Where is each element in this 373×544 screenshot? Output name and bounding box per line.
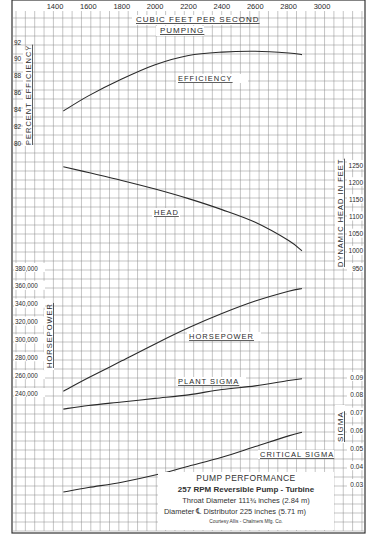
horsepower-tick-label: 380,000: [15, 265, 38, 272]
efficiency-tick-label: 88: [14, 72, 22, 79]
horsepower-tick-label: 240,000: [15, 390, 38, 397]
sigma-tick-label: 0.08: [350, 391, 363, 398]
head-tick-label: 1250: [349, 162, 364, 169]
x-tick-label: 2800: [280, 2, 297, 11]
horsepower-curve: [63, 289, 302, 392]
x-axis-label-2: PUMPING: [160, 26, 204, 35]
x-tick-label: 2400: [214, 2, 231, 11]
head-tick-label: 1100: [349, 213, 363, 220]
horsepower-tick-label: 320,000: [15, 318, 38, 325]
sigma-axis-label: SIGMA: [336, 411, 345, 442]
caption-line3: Diameter ℄ Distributor 225 inches (5.71 …: [136, 507, 334, 516]
pump-performance-chart: 1400160018002000220024002600280030008082…: [0, 0, 373, 544]
x-tick-label: 2000: [147, 2, 164, 11]
horsepower-tick-label: 300,000: [15, 336, 38, 343]
caption-line2: Throat Diameter 111¾ inches (2.84 m): [158, 496, 334, 505]
efficiency-tick-label: 80: [14, 140, 22, 147]
horsepower-tick-label: 360,000: [15, 282, 38, 289]
x-tick-label: 2600: [247, 2, 264, 11]
plant-sigma-curve-label: PLANT SIGMA: [178, 377, 239, 386]
efficiency-tick-label: 86: [14, 89, 22, 96]
x-tick-label: 1400: [47, 2, 64, 11]
efficiency-tick-label: 90: [14, 55, 22, 62]
head-tick-label: 1050: [349, 230, 364, 237]
head-tick-label: 1150: [349, 196, 363, 203]
efficiency-tick-label: 82: [14, 123, 22, 130]
head-tick-label: 950: [352, 265, 363, 272]
chart-caption: PUMP PERFORMANCE 257 RPM Reversible Pump…: [158, 472, 334, 530]
sigma-tick-label: 0.06: [350, 427, 363, 434]
sigma-tick-label: 0.04: [350, 463, 363, 470]
x-tick-label: 1600: [80, 2, 97, 11]
efficiency-tick-label: 92: [14, 39, 22, 46]
sigma-tick-label: 0.03: [350, 481, 363, 488]
data-curves: [63, 51, 302, 492]
head-tick-label: 1000: [349, 247, 364, 254]
sigma-tick-label: 0.05: [350, 445, 363, 452]
x-tick-label: 3000: [314, 2, 331, 11]
caption-line1: 257 RPM Reversible Pump - Turbine: [158, 485, 334, 494]
caption-title: PUMP PERFORMANCE: [158, 473, 334, 483]
x-axis-label: CUBIC FEET PER SECOND: [136, 15, 260, 24]
horsepower-axis-label: HORSEPOWER: [45, 303, 54, 368]
horsepower-tick-label: 340,000: [15, 300, 38, 307]
head-axis-label: DYNAMIC HEAD IN FEET: [336, 159, 345, 267]
caption-courtesy: Courtesy Allis - Chalmers Mfg. Co.: [158, 519, 334, 524]
x-tick-label: 1800: [113, 2, 130, 11]
head-tick-label: 1200: [349, 179, 364, 186]
sigma-tick-label: 0.07: [350, 409, 363, 416]
efficiency-tick-label: 84: [14, 106, 22, 113]
critical-sigma-curve-label: CRITICAL SIGMA: [260, 450, 334, 459]
sigma-tick-label: 0.09: [350, 374, 363, 381]
head-curve: [63, 167, 302, 251]
efficiency-axis-label: PERCENT EFFICIENCY: [24, 45, 33, 145]
horsepower-curve-label: HORSEPOWER: [189, 332, 254, 341]
head-curve-label: HEAD: [154, 208, 179, 217]
efficiency-curve-label: EFFICIENCY: [178, 74, 233, 83]
horsepower-tick-label: 260,000: [15, 372, 38, 379]
horsepower-tick-label: 280,000: [15, 354, 38, 361]
x-tick-label: 2200: [180, 2, 197, 11]
